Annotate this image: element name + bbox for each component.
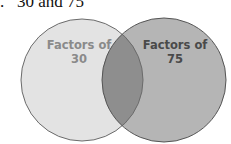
- set-b-number: 75: [140, 52, 210, 66]
- set-label-factors-of-75: Factors of 75: [140, 38, 210, 66]
- set-a-number: 30: [44, 52, 114, 66]
- set-a-title: Factors of: [44, 38, 114, 52]
- set-b-title: Factors of: [140, 38, 210, 52]
- set-label-factors-of-30: Factors of 30: [44, 38, 114, 66]
- venn-diagram: [0, 0, 231, 144]
